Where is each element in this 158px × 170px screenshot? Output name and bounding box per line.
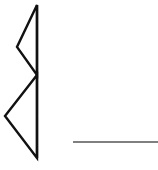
lower-triangle xyxy=(5,75,37,158)
diagram-canvas xyxy=(0,0,158,170)
diagram-svg xyxy=(0,0,158,170)
upper-triangle xyxy=(17,5,37,75)
